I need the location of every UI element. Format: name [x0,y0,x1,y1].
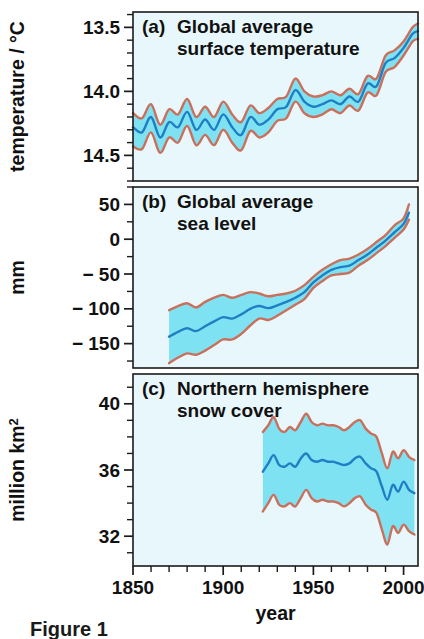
y-tick-label: 32 [99,526,120,547]
x-tick-label: 1850 [112,577,154,598]
panel-b-ticks [124,187,133,361]
panel-a-label: (a) [142,16,165,37]
x-tick-label: 2000 [382,577,424,598]
panel-c-title-line1: Northern hemisphere [177,378,369,399]
panel-b-label: (b) [142,191,166,212]
figure-caption: Figure 1 [30,618,108,639]
y-tick-label: 50 [99,194,120,215]
figure-svg: 14.514.013.5 (a) Global average surface … [0,0,424,639]
panel-a-ticks [124,15,133,181]
panel-c-y-axis-title: million km2 [6,418,28,522]
panel-c-title-line2: snow cover [177,400,282,421]
y-tick-label: 40 [99,393,120,414]
panel-a-title-line1: Global average [177,16,313,37]
y-tick-label: − 150 [72,333,120,354]
panel-a-y-tick-labels: 14.514.013.5 [83,17,120,166]
panel-a-y-axis-title: temperature / °C [6,21,28,172]
x-tick-labels: 1850190019502000 [112,577,424,598]
y-tick-label: − 50 [82,264,120,285]
panel-c-label: (c) [142,378,165,399]
y-tick-label: − 100 [72,298,120,319]
y-tick-label: 14.5 [83,145,120,166]
panel-b-title-line2: sea level [177,213,256,234]
y-tick-label: 13.5 [83,17,120,38]
y-tick-label: 14.0 [83,81,120,102]
panel-b-y-tick-labels: 500− 50− 100− 150 [72,194,120,354]
x-tick-label: 1950 [292,577,334,598]
panel-snow-cover: 403632 (c) Northern hemisphere snow cove… [6,374,418,575]
panel-b-y-axis-title: mm [6,260,28,295]
x-axis-title: year [255,602,296,624]
panel-sea-level: 500− 50− 100− 150 (b) Global average sea… [6,187,418,368]
y-tick-label: 36 [99,460,120,481]
y-tick-label: 0 [109,229,120,250]
panel-c-y-tick-labels: 403632 [99,393,120,546]
x-tick-label: 1900 [202,577,244,598]
panel-b-title-line1: Global average [177,191,313,212]
panel-temperature: 14.514.013.5 (a) Global average surface … [6,12,418,181]
panel-a-title-line2: surface temperature [177,38,360,59]
climate-indicators-figure: 14.514.013.5 (a) Global average surface … [0,0,424,639]
